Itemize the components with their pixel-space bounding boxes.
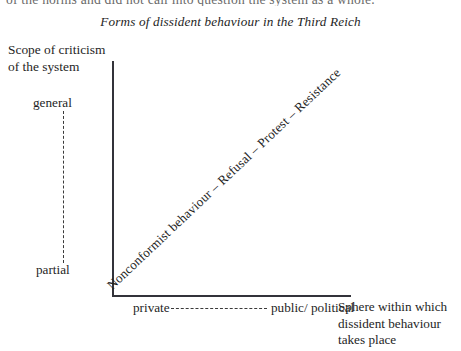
y-axis-title: Scope of criticism of the system bbox=[8, 41, 105, 75]
x-axis-title-line-2: dissident behaviour bbox=[338, 316, 447, 333]
diagonal-progression-label: Nonconformist behaviour – Refusal – Prot… bbox=[101, 65, 344, 296]
y-tick-label-partial: partial bbox=[36, 262, 70, 278]
y-axis-title-line-1: Scope of criticism bbox=[8, 41, 105, 58]
y-scale-dashed-connector bbox=[63, 111, 64, 263]
y-tick-label-general: general bbox=[33, 95, 72, 111]
x-scale-dashed-connector bbox=[171, 308, 267, 309]
dissident-behaviour-chart: Scope of criticism of the system general… bbox=[0, 0, 461, 351]
x-tick-label-public-line-1: public/ bbox=[271, 300, 308, 315]
x-tick-label-private: private bbox=[133, 300, 170, 316]
x-axis-title-line-1: Sphere within which bbox=[338, 299, 447, 316]
diagonal-annotation-area: Nonconformist behaviour – Refusal – Prot… bbox=[112, 48, 374, 296]
x-axis-title: Sphere within which dissident behaviour … bbox=[338, 299, 447, 349]
y-axis-title-line-2: of the system bbox=[8, 58, 105, 75]
x-axis-title-line-3: takes place bbox=[338, 332, 447, 349]
